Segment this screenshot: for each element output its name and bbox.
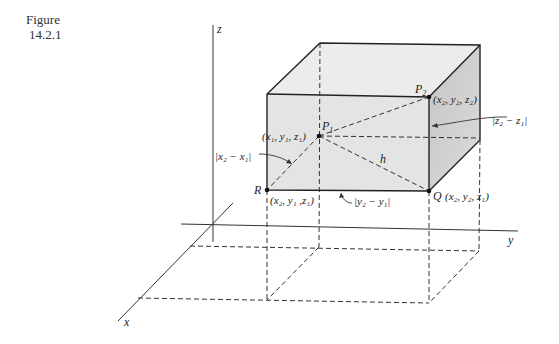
q-name: Q — [433, 189, 442, 203]
x-axis — [118, 203, 233, 321]
dy-leader — [341, 193, 352, 203]
q-coords: (x₂, y₂, z₁) — [445, 190, 489, 203]
y-axis — [181, 224, 518, 231]
y-axis-label: y — [507, 233, 514, 247]
p2-coords: (x₂, y₂, z₂) — [433, 93, 477, 106]
point-p1 — [317, 134, 322, 139]
dz-label: |z₂ − z₁| — [492, 114, 527, 126]
dy-label: |y₂ − y₁| — [354, 195, 390, 207]
r-name: R — [253, 183, 262, 197]
point-q — [427, 189, 432, 194]
box-diagram: z y x P1 (x₁, y₁, z₁) P2 (x₂, y₂, z₂) Q … — [0, 0, 559, 344]
x-axis-label: x — [123, 315, 130, 329]
r-coords: (x₂, y₁ ,z₁) — [270, 194, 314, 207]
p1-coords: (x₁, y₁, z₁) — [262, 130, 306, 143]
point-p2 — [427, 95, 432, 100]
z-axis-label: z — [216, 22, 222, 36]
front-face — [267, 94, 429, 191]
h-label: h — [380, 152, 386, 166]
point-r — [265, 188, 270, 193]
dx-label: |x₂ − x₁| — [215, 150, 251, 162]
